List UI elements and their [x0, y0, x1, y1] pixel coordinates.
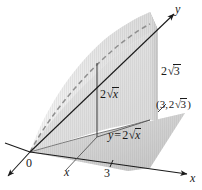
- equation-equals: =: [114, 128, 121, 142]
- corner-point-label: (3, 2√3): [156, 98, 191, 110]
- radical-group: √x: [128, 128, 141, 141]
- radicand-three: 3: [173, 64, 181, 77]
- point-comma: ,: [165, 98, 168, 110]
- radicand-x: x: [112, 87, 119, 100]
- radical-group: √3: [174, 98, 187, 110]
- equation-y: y: [108, 128, 113, 142]
- radical-group: √x: [106, 87, 119, 100]
- y-axis-label: y: [175, 3, 180, 15]
- curve-equation-label: y = 2√x: [108, 128, 141, 141]
- negative-y-axis-stub: [5, 143, 30, 152]
- radicand-three: 3: [180, 98, 187, 110]
- radical-group: √3: [167, 64, 181, 77]
- height-general-label: 2√x: [100, 87, 119, 100]
- x-axis-label: x: [190, 172, 195, 184]
- paren-close: ): [187, 98, 191, 110]
- x-tick-label-three: 3: [104, 167, 110, 179]
- height-at-x3-label: 2√3: [161, 64, 181, 77]
- x-variable-label: x: [64, 166, 69, 178]
- figure-container: y x 0 x 3 2√3 (3, 2√3) 2√x y = 2√x: [0, 0, 202, 190]
- radicand-x: x: [135, 128, 142, 141]
- origin-label: 0: [26, 157, 32, 169]
